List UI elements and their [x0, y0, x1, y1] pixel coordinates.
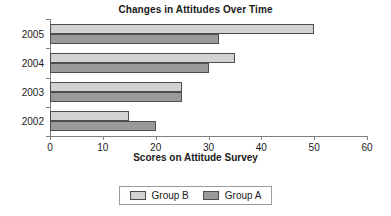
bar-group-a-2005 [50, 34, 219, 44]
legend-item-group-a[interactable]: Group A [203, 190, 262, 201]
bar-group-b-2003 [50, 82, 182, 92]
bar-group-b-2002 [50, 111, 129, 121]
y-axis-category-label: 2002 [22, 116, 44, 127]
x-axis-tick [103, 136, 104, 140]
bar-group-b-2004 [50, 53, 235, 63]
y-axis-tick [46, 48, 50, 49]
plot-area: 2005200420032002 [50, 19, 367, 136]
x-axis-tick [209, 136, 210, 140]
legend-swatch-icon [203, 191, 219, 200]
y-axis-tick [46, 19, 50, 20]
bar-group-a-2004 [50, 63, 209, 73]
chart-title: Changes in Attitudes Over Time [0, 4, 391, 15]
x-axis-tick [261, 136, 262, 140]
x-axis-tick-label: 10 [97, 142, 108, 153]
y-axis-category-label: 2003 [22, 87, 44, 98]
y-axis-category-label: 2005 [22, 28, 44, 39]
x-axis-tick-label: 60 [361, 142, 372, 153]
x-axis-tick [50, 136, 51, 140]
bar-group-b-2005 [50, 24, 314, 34]
x-axis-tick-label: 20 [150, 142, 161, 153]
legend-label: Group B [152, 190, 189, 201]
x-axis-tick-label: 30 [203, 142, 214, 153]
chart-legend: Group BGroup A [119, 186, 273, 205]
x-axis-tick [314, 136, 315, 140]
x-axis-tick-label: 50 [309, 142, 320, 153]
x-axis-title: Scores on Attitude Survey [0, 152, 391, 163]
bar-chart: Changes in Attitudes Over Time 200520042… [0, 0, 391, 216]
y-axis-tick [46, 107, 50, 108]
x-axis-tick-label: 0 [47, 142, 53, 153]
legend-swatch-icon [130, 191, 146, 200]
legend-label: Group A [225, 190, 262, 201]
x-axis-tick [367, 136, 368, 140]
bar-group-a-2003 [50, 92, 182, 102]
x-axis-tick [156, 136, 157, 140]
legend-item-group-b[interactable]: Group B [130, 190, 189, 201]
y-axis-category-label: 2004 [22, 57, 44, 68]
x-axis-tick-label: 40 [256, 142, 267, 153]
y-axis-tick [46, 78, 50, 79]
bar-group-a-2002 [50, 121, 156, 131]
